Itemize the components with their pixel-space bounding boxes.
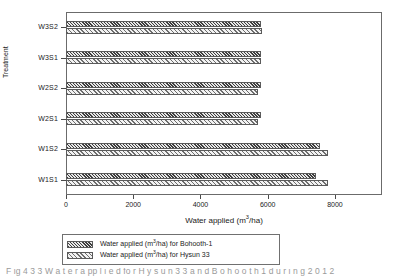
legend-label-hysun-33-pre: Water applied (m [100,251,153,258]
y-tick-label-w1s2: W1S2 [12,145,58,153]
bars-layer [66,12,382,195]
legend-label-bohooth-1-pre: Water applied (m [100,240,153,247]
y-tick-label-w2s1: W2S1 [12,115,58,123]
y-tick-w1s2 [61,149,66,150]
legend-item-bohooth-1: Water applied (m3/ha) for Bohooth-1 [67,239,275,249]
bar-w3s2-series2 [66,28,262,34]
x-tick-label-2000: 2000 [113,200,153,209]
bar-w2s1-series1 [66,112,261,118]
legend-swatch-bohooth-1 [67,241,93,248]
x-axis-title: Water applied (m3/ha) [66,216,382,226]
x-axis-title-post: /ha) [249,216,263,225]
x-tick-2000 [133,195,134,199]
y-tick-label-w2s2: W2S2 [12,84,58,92]
x-axis-title-pre: Water applied (m [185,216,246,225]
y-tick-w1s1 [61,180,66,181]
legend-label-bohooth-1-post: /ha) for Bohooth-1 [156,240,212,247]
y-tick-w3s2 [61,27,66,28]
legend-box: Water applied (m3/ha) for Bohooth-1 Wate… [62,234,280,265]
x-tick-label-4000: 4000 [180,200,220,209]
x-tick-label-8000: 8000 [315,200,355,209]
y-axis-title: Treatment [2,46,10,78]
x-tick-8000 [335,195,336,199]
x-tick-0 [66,195,67,199]
legend-item-hysun-33: Water applied (m3/ha) for Hysun 33 [67,250,275,260]
bar-w1s2-series1 [66,143,320,149]
y-tick-w3s1 [61,58,66,59]
bar-w3s1-series1 [66,51,261,57]
legend-label-hysun-33-post: /ha) for Hysun 33 [156,251,210,258]
bar-chart-figure: W1S1W1S2W2S1W2S2W3S1W3S2 020004000600080… [0,0,395,278]
caption-text: F ig 4 3 3 W a t e r a pp l i e d fo r H… [6,268,394,276]
bar-w2s1-series2 [66,119,258,125]
y-tick-w2s1 [61,119,66,120]
bar-w1s2-series2 [66,150,328,156]
x-tick-4000 [200,195,201,199]
legend-swatch-hysun-33 [67,252,93,259]
y-tick-label-w1s1: W1S1 [12,176,58,184]
legend-label-hysun-33: Water applied (m3/ha) for Hysun 33 [100,251,210,259]
legend-label-bohooth-1: Water applied (m3/ha) for Bohooth-1 [100,240,212,248]
bar-w1s1-series1 [66,173,316,179]
caption-strip: F ig 4 3 3 W a t e r a pp l i e d fo r H… [0,268,395,278]
x-tick-label-0: 0 [46,200,86,209]
bar-w2s2-series2 [66,89,258,95]
y-tick-w2s2 [61,88,66,89]
x-tick-6000 [268,195,269,199]
y-tick-label-w3s2: W3S2 [12,23,58,31]
bar-w1s1-series2 [66,180,328,186]
x-tick-label-6000: 6000 [248,200,288,209]
bar-w2s2-series1 [66,82,261,88]
bar-w3s1-series2 [66,58,261,64]
y-tick-label-w3s1: W3S1 [12,54,58,62]
bar-w3s2-series1 [66,21,261,27]
